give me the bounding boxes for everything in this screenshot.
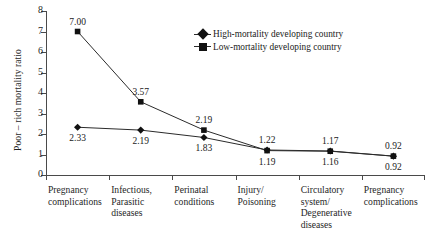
- x-tick-mark: [362, 175, 363, 180]
- x-category-label: Pregnancycomplications: [364, 184, 430, 207]
- data-point-square: [138, 99, 144, 105]
- legend-label-low-mortality: Low-mortality developing country: [213, 41, 342, 54]
- y-axis-title: Poor – rich mortality ratio: [13, 25, 23, 175]
- x-tick-mark: [46, 175, 47, 180]
- data-point-value-label: 1.19: [259, 157, 276, 167]
- x-tick-mark: [299, 175, 300, 180]
- data-point-value-label: 0.92: [385, 162, 402, 172]
- legend-item-low-mortality: Low-mortality developing country: [194, 41, 343, 54]
- data-point-value-label: 3.57: [132, 87, 149, 97]
- data-point-value-label: 0.92: [385, 141, 402, 151]
- y-tick-label: 6: [38, 45, 43, 57]
- y-tick-label: 2: [38, 127, 43, 139]
- y-tick-label: 8: [38, 4, 43, 16]
- x-tick-mark: [109, 175, 110, 180]
- data-point-diamond: [137, 127, 144, 134]
- data-point-square: [75, 29, 81, 35]
- data-point-square: [391, 153, 397, 159]
- x-axis-category-labels: PregnancycomplicationsInfectious,Parasit…: [46, 184, 430, 242]
- data-point-value-label: 2.33: [69, 133, 86, 143]
- data-point-square: [264, 148, 270, 154]
- x-tick-mark: [172, 175, 173, 180]
- y-tick-label: 5: [38, 66, 43, 78]
- data-point-value-label: 2.19: [132, 136, 149, 146]
- data-point-value-label: 7.00: [69, 17, 86, 27]
- data-point-value-label: 1.22: [259, 135, 276, 145]
- data-point-value-label: 2.19: [196, 115, 213, 125]
- chart-legend: High-mortality developing country Low-mo…: [194, 28, 343, 53]
- legend-item-high-mortality: High-mortality developing country: [194, 28, 343, 41]
- x-tick-mark: [424, 175, 425, 180]
- x-tick-mark: [236, 175, 237, 180]
- y-tick-label: 3: [38, 107, 43, 119]
- data-point-value-label: 1.16: [322, 157, 339, 167]
- y-tick-label: 4: [38, 86, 43, 98]
- data-point-diamond: [74, 124, 81, 131]
- square-marker-icon: [194, 41, 211, 52]
- y-tick-label: 7: [38, 25, 43, 37]
- y-tick-label: 0: [38, 168, 43, 180]
- series-line-high-mortality: [78, 127, 394, 156]
- data-point-value-label: 1.83: [196, 143, 213, 153]
- data-point-square: [327, 148, 333, 154]
- data-point-value-label: 1.17: [322, 136, 339, 146]
- chart-container: Poor – rich mortality ratio 012345678 2.…: [0, 0, 430, 242]
- diamond-marker-icon: [194, 29, 211, 40]
- data-point-diamond: [200, 134, 207, 141]
- data-point-square: [201, 127, 207, 133]
- y-tick-label: 1: [38, 148, 43, 160]
- legend-label-high-mortality: High-mortality developing country: [213, 28, 343, 41]
